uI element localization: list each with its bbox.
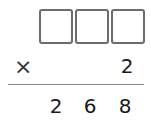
product-digit-ones: 8 xyxy=(118,96,132,116)
multiplier-digit: 2 xyxy=(120,56,134,76)
product-digit-tens: 6 xyxy=(83,96,97,116)
answer-box-ones[interactable] xyxy=(111,9,145,44)
answer-box-tens[interactable] xyxy=(75,9,109,44)
product-digit-hundreds: 2 xyxy=(49,96,63,116)
multiply-sign: × xyxy=(14,56,32,78)
sum-line xyxy=(8,84,144,85)
answer-box-hundreds[interactable] xyxy=(39,9,73,44)
